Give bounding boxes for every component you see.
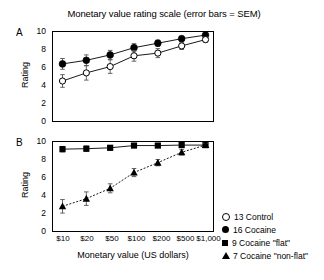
- panel-b-frame: [53, 142, 214, 232]
- legend-item-control: 13 Control: [222, 211, 322, 224]
- legend-label-cocaine-nonflat: 7 Cocaine "non-flat": [233, 250, 308, 263]
- legend-label-control: 13 Control: [234, 211, 273, 224]
- open-circle-marker-icon: [222, 213, 230, 221]
- filled-circle-marker-icon: [222, 226, 229, 233]
- filled-triangle-marker-icon: [222, 252, 230, 259]
- legend-item-cocaine-nonflat: 7 Cocaine "non-flat": [222, 250, 322, 263]
- legend-item-cocaine-flat: 9 Cocaine "flat": [222, 237, 322, 250]
- figure-monetary-value-rating-scale: Monetary value rating scale (error bars …: [0, 0, 324, 280]
- legend: 13 Control 16 Cocaine 9 Cocaine "flat" 7…: [222, 211, 322, 263]
- series-filled-square: [59, 142, 208, 152]
- legend-label-cocaine: 16 Cocaine: [233, 224, 276, 237]
- legend-label-cocaine-flat: 9 Cocaine "flat": [232, 237, 290, 250]
- series-filled-triangle: [59, 141, 209, 213]
- series-layer: [59, 32, 209, 213]
- filled-square-marker-icon: [222, 240, 228, 246]
- legend-item-cocaine: 16 Cocaine: [222, 224, 322, 237]
